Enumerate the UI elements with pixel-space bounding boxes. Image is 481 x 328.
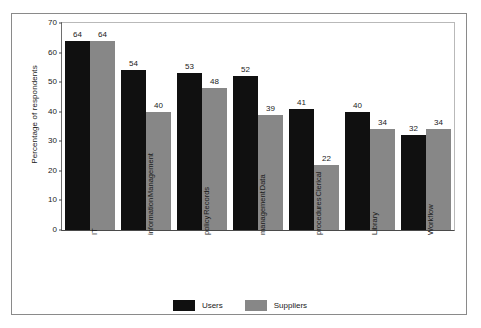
legend-item: Suppliers: [245, 300, 307, 311]
bar-value-label: 54: [129, 60, 138, 68]
legend-swatch: [245, 300, 267, 311]
bar-value-label: 34: [434, 119, 443, 127]
chart-legend: UsersSuppliers: [12, 300, 468, 311]
bars-layer: 6464IT5440Managementinformation5348Recor…: [62, 23, 454, 230]
figure-frame: Percentage of respondents 70605040302010…: [11, 13, 467, 315]
bar-group: 6464IT: [65, 23, 115, 230]
bar-users: 64: [65, 41, 90, 230]
plot-area: 706050403020100 6464IT5440Managementinfo…: [61, 22, 455, 231]
bar-value-label: 64: [73, 31, 82, 39]
bar-group: 4034Library: [345, 23, 395, 230]
legend-label: Users: [202, 302, 223, 310]
bar-users: 53: [177, 73, 202, 230]
bar-users: 40: [345, 112, 370, 230]
bar-value-label: 40: [353, 102, 362, 110]
bar-group: 3234Workflow: [401, 23, 451, 230]
bar-value-label: 40: [154, 102, 163, 110]
bar-group: 5348Recordspolicy: [177, 23, 227, 230]
bar-value-label: 64: [98, 31, 107, 39]
bar-value-label: 53: [185, 63, 194, 71]
y-axis-title: Percentage of respondents: [30, 35, 39, 195]
bar-users: 54: [121, 70, 146, 230]
bar-value-label: 39: [266, 105, 275, 113]
legend-label: Suppliers: [274, 302, 307, 310]
bar-value-label: 52: [241, 66, 250, 74]
bar-value-label: 32: [409, 125, 418, 133]
bar-users: 32: [401, 135, 426, 230]
bar-group: 4122Clericalprocedures: [289, 23, 339, 230]
legend-item: Users: [173, 300, 223, 311]
bar-chart: Percentage of respondents 70605040302010…: [12, 14, 468, 316]
bar-value-label: 48: [210, 78, 219, 86]
bar-group: 5239Datamanagement: [233, 23, 283, 230]
bar-value-label: 34: [378, 119, 387, 127]
bar-suppliers: 64: [90, 41, 115, 230]
bar-group: 5440Managementinformation: [121, 23, 171, 230]
bar-users: 41: [289, 109, 314, 230]
bar-value-label: 41: [297, 99, 306, 107]
bar-value-label: 22: [322, 155, 331, 163]
legend-swatch: [173, 300, 195, 311]
bar-users: 52: [233, 76, 258, 230]
